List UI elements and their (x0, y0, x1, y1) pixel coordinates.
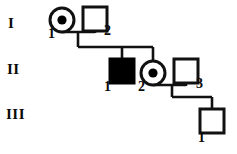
carrier-dot-icon (148, 68, 157, 77)
individual-number-I-1: 1 (48, 27, 55, 41)
generation-label-III: III (6, 107, 25, 122)
individual-number-I-2: 2 (104, 24, 111, 38)
individual-number-II-3: 3 (196, 77, 203, 91)
individual-number-II-1: 1 (104, 80, 111, 94)
individual-II-1[interactable] (110, 59, 134, 83)
individual-number-II-2: 2 (138, 80, 145, 94)
generation-label-II: II (7, 62, 20, 77)
pedigree-chart: I II III 1 2 1 2 3 1 (0, 0, 237, 154)
carrier-dot-icon (57, 15, 66, 24)
square-symbol-male (174, 59, 198, 83)
individual-II-3[interactable] (174, 59, 198, 83)
generation-label-I: I (8, 16, 14, 31)
square-symbol-affected-male (110, 59, 134, 83)
individual-number-III-1: 1 (198, 131, 205, 145)
